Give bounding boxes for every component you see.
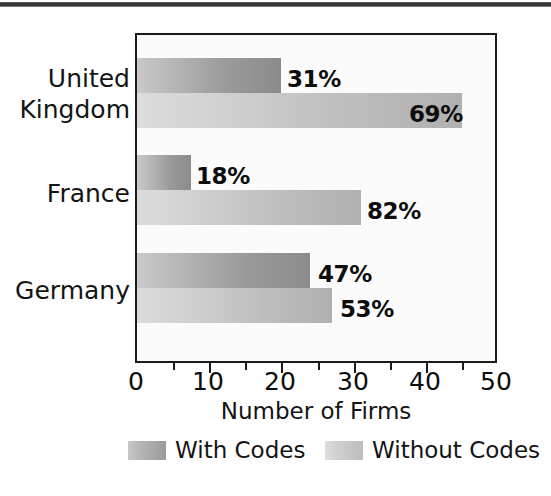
legend-item-with-codes: With Codes bbox=[128, 437, 305, 463]
x-tick-minor-5 bbox=[173, 361, 175, 370]
bar-germany-with-codes bbox=[137, 253, 310, 288]
bar-united-kingdom-with-codes bbox=[137, 58, 281, 93]
legend-label-with-codes: With Codes bbox=[175, 439, 305, 462]
bar-chart-figure: United Kingdom France Germany bbox=[0, 0, 551, 496]
bar-france-without-codes bbox=[137, 190, 361, 225]
legend-swatch-with-codes-icon bbox=[128, 441, 166, 460]
x-axis-tick-label-50: 50 bbox=[480, 369, 512, 394]
x-axis-tick-label-30: 30 bbox=[337, 369, 369, 394]
value-label-france-with-codes: 18% bbox=[196, 165, 250, 188]
value-label-germany-without-codes: 53% bbox=[340, 298, 394, 321]
category-label-germany: Germany bbox=[0, 275, 130, 306]
category-label-line-1: United bbox=[0, 63, 130, 94]
category-label-line-2: Kingdom bbox=[0, 94, 130, 125]
chart-legend: With Codes Without Codes bbox=[120, 437, 540, 467]
x-axis-tick-label-10: 10 bbox=[192, 369, 224, 394]
value-label-germany-with-codes: 47% bbox=[318, 263, 372, 286]
x-tick-minor-15 bbox=[245, 361, 247, 370]
bar-france-with-codes bbox=[137, 155, 191, 190]
legend-item-without-codes: Without Codes bbox=[325, 437, 540, 463]
value-label-france-without-codes: 82% bbox=[367, 200, 421, 223]
x-tick-minor-35 bbox=[390, 361, 392, 370]
value-label-uk-with-codes: 31% bbox=[287, 68, 341, 91]
category-label-france: France bbox=[0, 178, 130, 209]
x-axis-title: Number of Firms bbox=[135, 400, 497, 423]
x-tick-minor-25 bbox=[318, 361, 320, 370]
category-label-united-kingdom: United Kingdom bbox=[0, 63, 130, 125]
x-axis-tick-label-0: 0 bbox=[128, 369, 144, 394]
x-tick-minor-45 bbox=[462, 361, 464, 370]
bar-germany-without-codes bbox=[137, 288, 332, 323]
value-label-uk-without-codes: 69% bbox=[409, 103, 463, 126]
legend-swatch-without-codes-icon bbox=[325, 441, 363, 460]
x-axis-tick-label-40: 40 bbox=[409, 369, 441, 394]
legend-label-without-codes: Without Codes bbox=[372, 439, 540, 462]
x-axis-tick-label-20: 20 bbox=[264, 369, 296, 394]
